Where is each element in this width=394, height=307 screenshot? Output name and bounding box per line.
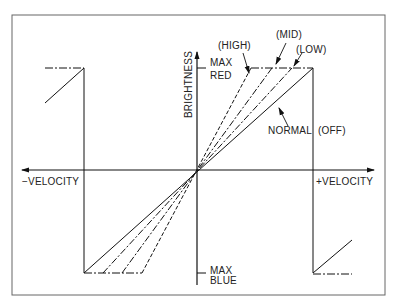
label-high: (HIGH) bbox=[218, 40, 251, 51]
diagram-canvas bbox=[0, 0, 394, 307]
label-brightness: BRIGHTNESS bbox=[183, 51, 194, 118]
label-max-blue-2: BLUE bbox=[210, 275, 237, 286]
label-low: (LOW) bbox=[296, 44, 326, 55]
left-wrap-segment bbox=[45, 68, 84, 103]
high-leader bbox=[243, 53, 249, 73]
label-max-red-2: RED bbox=[210, 70, 232, 81]
label-neg-velocity: −VELOCITY bbox=[22, 176, 79, 187]
label-pos-velocity: +VELOCITY bbox=[316, 176, 373, 187]
label-normal: NORMAL bbox=[268, 125, 312, 136]
mid-leader bbox=[276, 43, 286, 64]
right-wrap-segment bbox=[313, 240, 352, 273]
label-max-red-1: MAX bbox=[210, 57, 232, 68]
diagram-frame bbox=[12, 15, 385, 295]
normal-leader bbox=[279, 108, 288, 126]
label-off: (OFF) bbox=[318, 125, 346, 136]
label-mid: (MID) bbox=[276, 29, 302, 40]
